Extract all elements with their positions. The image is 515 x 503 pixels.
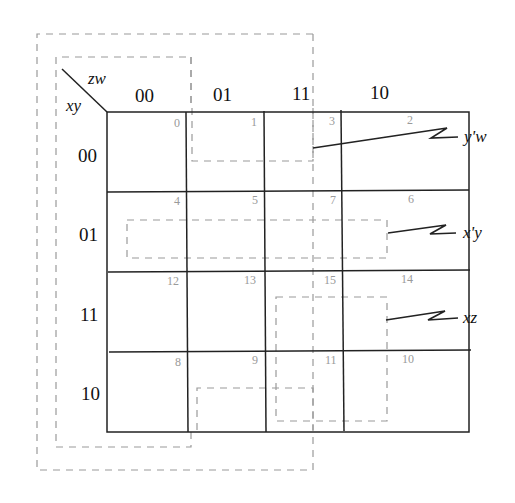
cell-number: 4	[174, 194, 180, 208]
cell-number: 15	[324, 273, 336, 287]
cell-number: 3	[329, 114, 335, 128]
cell-number: 6	[408, 192, 414, 206]
row-header-00: 00	[78, 145, 97, 166]
term-label-xz: xz	[462, 308, 478, 327]
col-header-11: 11	[292, 83, 310, 104]
karnaugh-map: zw xy 00 01 11 10 00 01 11 10 0 1 3 2 4 …	[0, 0, 515, 503]
group-inner-wrap-path	[56, 57, 191, 447]
row-header-11: 11	[80, 304, 98, 325]
cell-number: 10	[402, 352, 414, 366]
cell-number: 8	[175, 355, 181, 369]
col-header-10: 10	[370, 82, 389, 103]
group-yprime-w-bottom	[197, 388, 313, 430]
leader-xz	[386, 311, 458, 320]
group-xprime-y	[127, 220, 387, 258]
cell-number: 7	[330, 193, 336, 207]
row-variable-label: xy	[65, 96, 82, 115]
leader-xprime-y	[388, 225, 456, 234]
cell-number: 0	[174, 116, 180, 130]
term-label-xprime-y: x'y	[462, 223, 482, 242]
col-variable-label: zw	[87, 69, 107, 88]
col-header-01: 01	[213, 84, 232, 105]
term-label-yprime-w: y'w	[462, 127, 487, 146]
cell-number: 14	[401, 272, 413, 286]
cell-number: 5	[252, 193, 258, 207]
cell-number: 9	[252, 353, 258, 367]
leader-yprime-w	[313, 128, 458, 148]
cell-number: 11	[325, 353, 337, 367]
cell-number: 1	[251, 115, 257, 129]
row-header-01: 01	[79, 224, 98, 245]
col-header-00: 00	[135, 85, 154, 106]
cell-number: 13	[244, 273, 256, 287]
row-header-10: 10	[81, 383, 100, 404]
cell-number: 2	[407, 113, 413, 127]
cell-number: 12	[167, 274, 179, 288]
